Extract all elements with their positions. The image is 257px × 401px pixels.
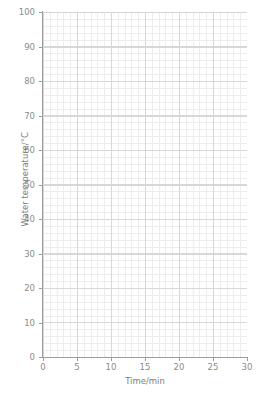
- x-tick-label: 10: [99, 363, 123, 372]
- chart-screenshot: 0102030405060708090100 051015202530 Wate…: [0, 0, 257, 401]
- y-tick-label: 10: [7, 319, 35, 328]
- x-tick-label: 30: [235, 363, 257, 372]
- y-tick-label: 90: [7, 43, 35, 52]
- y-tick-mark: [39, 185, 42, 186]
- x-tick-label: 0: [31, 363, 55, 372]
- x-tick-label: 15: [133, 363, 157, 372]
- y-tick-label: 20: [7, 284, 35, 293]
- y-tick-mark: [39, 288, 42, 289]
- y-tick-label: 0: [7, 353, 35, 362]
- y-tick-mark: [39, 254, 42, 255]
- x-tick-mark: [77, 358, 78, 361]
- x-tick-label: 20: [167, 363, 191, 372]
- y-tick-mark: [39, 81, 42, 82]
- x-tick-label: 25: [201, 363, 225, 372]
- x-axis-title: Time/min: [43, 377, 247, 386]
- major-gridlines: [43, 12, 247, 357]
- y-axis-spine: [42, 11, 43, 358]
- y-tick-mark: [39, 323, 42, 324]
- x-tick-mark: [213, 358, 214, 361]
- y-tick-mark: [39, 357, 42, 358]
- plot-area: [43, 12, 247, 357]
- y-tick-mark: [39, 47, 42, 48]
- x-tick-mark: [179, 358, 180, 361]
- y-tick-label: 80: [7, 77, 35, 86]
- x-tick-mark: [145, 358, 146, 361]
- y-tick-mark: [39, 116, 42, 117]
- y-axis-title: Water temperature/°C: [21, 99, 30, 259]
- y-tick-label: 100: [7, 8, 35, 17]
- y-tick-mark: [39, 219, 42, 220]
- x-tick-mark: [43, 358, 44, 361]
- x-tick-label: 5: [65, 363, 89, 372]
- y-tick-mark: [39, 150, 42, 151]
- x-tick-mark: [111, 358, 112, 361]
- x-tick-mark: [247, 358, 248, 361]
- y-tick-mark: [39, 12, 42, 13]
